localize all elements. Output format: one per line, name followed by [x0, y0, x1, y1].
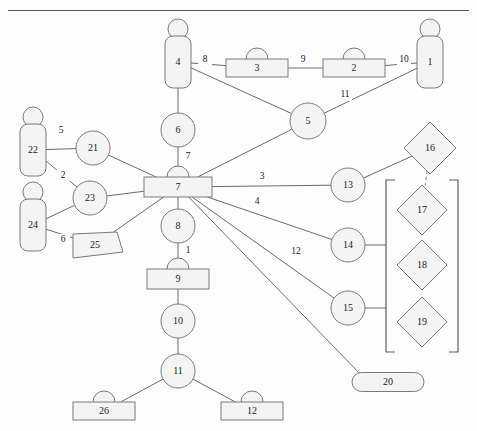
node-12[interactable]: 12 [221, 391, 283, 420]
node-1[interactable]: 1 [417, 19, 443, 88]
node-label: 11 [173, 365, 183, 376]
node-6[interactable]: 6 [161, 113, 195, 147]
node-25[interactable]: 25 [73, 232, 123, 258]
node-9[interactable]: 9 [147, 258, 209, 289]
edge-label: 9 [301, 54, 306, 64]
node-label: 19 [417, 316, 427, 327]
node-label: 22 [28, 144, 38, 155]
node-11[interactable]: 11 [161, 354, 195, 388]
node-label: 12 [247, 405, 257, 416]
node-label: 25 [90, 239, 100, 250]
edge-n24-n23 [46, 205, 75, 219]
node-label: 7 [176, 181, 181, 192]
node-label: 14 [343, 239, 353, 250]
node-label: 17 [417, 204, 427, 215]
node-2[interactable]: 2 [323, 48, 385, 77]
node-8[interactable]: 8 [161, 209, 195, 243]
diagram-canvas: 1234567891011121314151617181920212223242… [0, 0, 477, 431]
node-22[interactable]: 22 [20, 107, 46, 176]
edge-label: 10 [399, 54, 409, 64]
node-label: 1 [428, 56, 433, 67]
group-bracket [386, 180, 395, 352]
node-label: 16 [425, 142, 435, 153]
edge-n23-n7 [107, 191, 144, 196]
edge-n22-n21 [46, 149, 76, 150]
node-17[interactable]: 17 [397, 185, 447, 235]
node-20[interactable]: 20 [352, 373, 424, 392]
edge-label: 11 [340, 89, 349, 99]
diagram-svg: 1234567891011121314151617181920212223242… [0, 0, 477, 431]
node-label: 15 [343, 302, 353, 313]
node-label: 2 [352, 62, 357, 73]
node-label: 5 [306, 115, 311, 126]
node-label: 9 [176, 273, 181, 284]
node-label: 13 [343, 179, 353, 190]
node-label: 8 [176, 220, 181, 231]
node-label: 21 [88, 142, 98, 153]
node-3[interactable]: 3 [226, 48, 288, 77]
edge-n7-n14 [207, 197, 332, 240]
edge-n16-n17 [425, 171, 427, 188]
node-10[interactable]: 10 [161, 304, 195, 338]
group-bracket-right [449, 180, 458, 352]
edge-n7-n20 [189, 197, 362, 376]
node-13[interactable]: 13 [331, 168, 365, 202]
edge-label: 12 [291, 246, 301, 256]
node-5[interactable]: 5 [290, 103, 326, 139]
node-14[interactable]: 14 [331, 228, 365, 262]
node-19[interactable]: 19 [397, 297, 447, 347]
node-4[interactable]: 4 [165, 19, 191, 88]
node-21[interactable]: 21 [76, 131, 110, 165]
edge-n25-n7 [114, 197, 164, 232]
node-label: 20 [383, 376, 393, 387]
edge-label: 7 [186, 151, 191, 161]
node-label: 3 [255, 62, 260, 73]
edge-n11-n26 [121, 379, 163, 402]
node-18[interactable]: 18 [397, 240, 447, 290]
node-26[interactable]: 26 [73, 391, 135, 420]
edge-n5-n7 [198, 129, 292, 177]
node-16[interactable]: 16 [404, 122, 456, 174]
edge-label: 6 [61, 234, 66, 244]
edge-label: 5 [59, 125, 64, 135]
node-label: 26 [99, 405, 109, 416]
edge-label: 1 [186, 245, 191, 255]
edge-n7-n13 [212, 185, 331, 186]
node-15[interactable]: 15 [331, 291, 365, 325]
node-label: 10 [173, 315, 183, 326]
node-24[interactable]: 24 [20, 182, 46, 251]
edge-n7-n15 [192, 197, 334, 298]
node-label: 24 [28, 219, 38, 230]
nodes-layer: 1234567891011121314151617181920212223242… [20, 19, 456, 420]
edge-n21-n7 [108, 155, 156, 177]
edge-label: 4 [255, 196, 260, 206]
node-23[interactable]: 23 [73, 181, 107, 215]
node-7[interactable]: 7 [144, 166, 212, 197]
edge-n11-n12 [193, 379, 235, 402]
edge-label: 3 [260, 171, 265, 181]
node-label: 6 [176, 124, 181, 135]
edge-label: 8 [203, 54, 208, 64]
node-label: 18 [417, 259, 427, 270]
node-label: 4 [176, 56, 181, 67]
edge-n13-n16 [363, 156, 412, 178]
node-label: 23 [85, 192, 95, 203]
edge-label: 2 [61, 170, 66, 180]
